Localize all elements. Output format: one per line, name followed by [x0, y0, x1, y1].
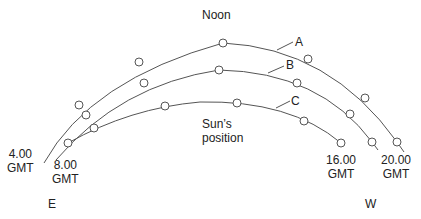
arc-a-leader — [277, 42, 293, 50]
sun-position-line2: position — [202, 131, 243, 145]
time-16-label: 16.00 GMT — [326, 153, 356, 181]
time-20-zone: GMT — [381, 167, 411, 181]
noon-label: Noon — [202, 8, 231, 22]
time-8-label: 8.00 GMT — [52, 158, 79, 186]
arc-c-leader — [276, 101, 290, 108]
time-4-zone: GMT — [7, 161, 34, 175]
arc-c-label: C — [291, 94, 300, 108]
arc-b-label: B — [286, 58, 294, 72]
time-16-zone: GMT — [326, 167, 356, 181]
east-label: E — [48, 197, 56, 211]
time-20-value: 20.00 — [381, 153, 411, 167]
arc-a-path — [44, 43, 404, 163]
arc-a-label: A — [295, 35, 303, 49]
time-8-value: 8.00 — [52, 158, 79, 172]
sun-path-diagram — [0, 0, 421, 219]
time-4-value: 4.00 — [7, 147, 34, 161]
time-4-label: 4.00 GMT — [7, 147, 34, 175]
arc-b-path — [56, 70, 378, 160]
sun-position-line1: Sun’s — [202, 117, 243, 131]
time-8-zone: GMT — [52, 172, 79, 186]
sun-position-label: Sun’s position — [202, 117, 243, 145]
arc-b-leader — [268, 66, 284, 73]
west-label: W — [365, 197, 376, 211]
time-16-value: 16.00 — [326, 153, 356, 167]
time-20-label: 20.00 GMT — [381, 153, 411, 181]
